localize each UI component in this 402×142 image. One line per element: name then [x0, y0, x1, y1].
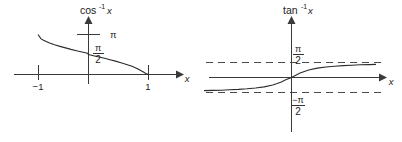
arctan-x-axis-arrowhead: [379, 74, 387, 82]
arccos-x-tick-label-neg1: −1: [33, 81, 44, 92]
arccos-function-superscript: -1: [99, 3, 105, 10]
arctan-function-variable: x: [307, 5, 314, 16]
arctan-x-axis-label: x: [388, 76, 395, 87]
arctan-function-label: tan: [283, 4, 298, 16]
arccos-function-variable: x: [106, 5, 113, 16]
arccos-y-axis-arrowhead: [85, 16, 93, 24]
arccos-curve-path: [38, 35, 149, 75]
arctan-y-axis-arrowhead: [288, 16, 296, 24]
arctan-plot-svg: tan -1 x π 2 −π 2 x: [201, 0, 402, 142]
arccos-y-tick-label-pi: π: [110, 29, 117, 40]
arctan-y-tick-label-neg-pi-over-2-numerator: −π: [292, 95, 303, 105]
arccos-plot-panel: cos -1 x π π 2 −1 1 x: [0, 0, 201, 142]
arctan-y-tick-label-pi-over-2-denominator: 2: [295, 55, 301, 66]
arctan-y-tick-label-pi-over-2-numerator: π: [295, 44, 301, 54]
arccos-y-tick-label-pi-over-2-numerator: π: [95, 43, 101, 53]
arccos-x-axis-arrowhead: [176, 71, 184, 79]
arccos-function-label: cos: [80, 4, 96, 16]
arccos-y-tick-label-pi-over-2-denominator: 2: [95, 54, 101, 65]
arccos-x-axis-label: x: [184, 73, 191, 84]
arctan-plot-panel: tan -1 x π 2 −π 2 x: [201, 0, 402, 142]
arccos-plot-svg: cos -1 x π π 2 −1 1 x: [0, 0, 201, 142]
inverse-trig-functions-figure: cos -1 x π π 2 −1 1 x: [0, 0, 402, 142]
arctan-y-tick-label-neg-pi-over-2-denominator: 2: [295, 106, 301, 117]
arctan-function-superscript: -1: [301, 3, 307, 10]
arccos-x-tick-label-1: 1: [145, 81, 150, 92]
